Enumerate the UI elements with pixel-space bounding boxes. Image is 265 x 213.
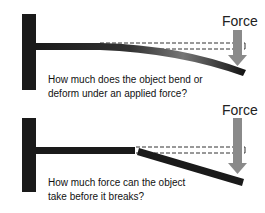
wall <box>22 118 36 192</box>
caption-line-1: How much force can the object <box>48 176 185 190</box>
bent-beam <box>36 43 246 76</box>
force-arrow-icon <box>228 30 247 66</box>
bending-panel: Force How much does the object bend or d… <box>0 0 265 106</box>
force-label: Force <box>222 14 258 28</box>
force-label: Force <box>222 103 258 117</box>
breaking-panel: Force How much force can the object take… <box>0 106 265 213</box>
caption-line-2: take before it breaks? <box>48 190 144 204</box>
wall <box>22 14 36 90</box>
intact-beam <box>36 147 135 154</box>
caption-line-2: deform under an applied force? <box>48 87 187 101</box>
caption-line-1: How much does the object bend or <box>48 73 203 87</box>
force-arrow-icon <box>228 118 247 174</box>
